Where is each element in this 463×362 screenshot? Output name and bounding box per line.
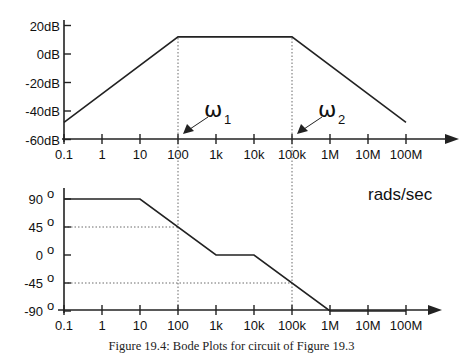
omega2-annotation: ω 2 bbox=[297, 97, 345, 134]
y-tick-label: -20dB bbox=[25, 76, 60, 91]
y-tick-label: 0 bbox=[36, 248, 43, 263]
x-tick-label: 100M bbox=[390, 318, 423, 333]
omega2-subscript: 2 bbox=[338, 112, 345, 127]
x-tick-label: 1k bbox=[209, 147, 223, 162]
omega1-subscript: 1 bbox=[224, 112, 231, 127]
degree-symbol: o bbox=[47, 270, 54, 285]
x-tick-label: 10M bbox=[355, 147, 380, 162]
y-tick-label: -40dB bbox=[25, 104, 60, 119]
x-tick-label: 10 bbox=[133, 147, 147, 162]
x-tick-label: 10k bbox=[244, 147, 265, 162]
x-tick-label: 10k bbox=[244, 318, 265, 333]
omega1-annotation: ω 1 bbox=[183, 97, 231, 134]
omega1-arrow-shaft bbox=[190, 117, 208, 129]
y-tick-label: 0dB bbox=[37, 47, 60, 62]
y-tick-label: 45 bbox=[29, 220, 43, 235]
degree-symbol: o bbox=[47, 298, 54, 313]
magnitude-plot: 20dB0dB-20dB-40dB-60dB 0.11101001k10k100… bbox=[25, 19, 459, 311]
y-tick-label: -60dB bbox=[25, 133, 60, 148]
x-tick-label: 0.1 bbox=[55, 147, 73, 162]
y-tick-label: -90 bbox=[24, 304, 43, 319]
x-tick-label: 100k bbox=[278, 318, 307, 333]
degree-symbol: o bbox=[47, 186, 54, 201]
phase-plot: 90o45o0o-45o-90o 0.11101001k10k100k1M10M… bbox=[24, 185, 442, 333]
x-tick-label: 1 bbox=[98, 318, 105, 333]
omega1-arrow-icon bbox=[183, 124, 194, 134]
y-tick-label: -45 bbox=[24, 276, 43, 291]
x-tick-label: 1 bbox=[98, 147, 105, 162]
x-tick-label: 1M bbox=[321, 147, 339, 162]
omega2-arrow-icon bbox=[297, 124, 308, 134]
degree-symbol: o bbox=[47, 214, 54, 229]
units-label: rads/sec bbox=[368, 185, 433, 204]
omega2-arrow-shaft bbox=[304, 117, 322, 129]
magnitude-x-axis-arrow-icon bbox=[445, 134, 459, 144]
bode-figure: 20dB0dB-20dB-40dB-60dB 0.11101001k10k100… bbox=[0, 0, 463, 362]
x-tick-label: 100M bbox=[390, 147, 423, 162]
magnitude-curve bbox=[64, 37, 406, 123]
y-tick-label: 90 bbox=[29, 192, 43, 207]
figure-caption: Figure 19.4: Bode Plots for circuit of F… bbox=[0, 339, 463, 354]
phase-x-axis-arrow-icon bbox=[428, 305, 442, 315]
x-tick-label: 1M bbox=[321, 318, 339, 333]
x-tick-label: 0.1 bbox=[55, 318, 73, 333]
degree-symbol: o bbox=[47, 242, 54, 257]
y-tick-label: 20dB bbox=[30, 19, 60, 34]
x-tick-label: 10M bbox=[355, 318, 380, 333]
x-tick-label: 100 bbox=[167, 318, 189, 333]
x-tick-label: 10 bbox=[133, 318, 147, 333]
x-tick-label: 1k bbox=[209, 318, 223, 333]
phase-curve bbox=[64, 199, 406, 311]
